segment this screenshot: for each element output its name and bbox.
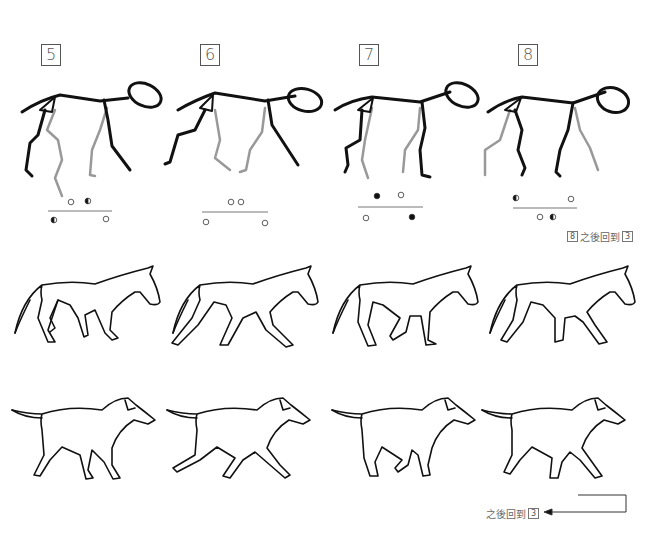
return-arrow-icon <box>544 495 626 515</box>
note-text: 之後回到 <box>486 506 526 521</box>
dog-row <box>0 0 669 536</box>
dog-frame-8 <box>482 398 625 478</box>
dog-frame-5 <box>12 398 155 479</box>
dog-frame-6 <box>167 398 310 478</box>
frame-ref-3: 3 <box>528 508 539 519</box>
dog-frame-7 <box>332 398 475 476</box>
note-after-sequence: 之後回到 3 <box>486 506 539 521</box>
